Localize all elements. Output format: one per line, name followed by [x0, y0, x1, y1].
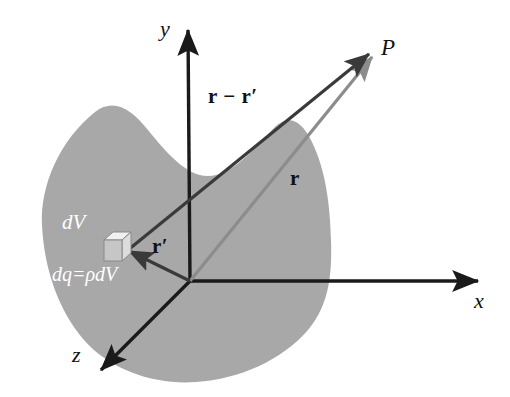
y-axis — [188, 30, 190, 281]
volume-element-label: dV — [62, 212, 85, 233]
charge-element-label: dq=ρdV — [52, 264, 117, 284]
charge-distribution-blob — [42, 105, 331, 382]
x-axis-label: x — [474, 290, 484, 312]
volume-element-cube — [104, 232, 131, 261]
y-axis-label: y — [160, 18, 170, 40]
field-point-label: P — [381, 36, 395, 59]
diagram-canvas — [0, 0, 510, 397]
source-vector-label: r′ — [152, 236, 168, 257]
charge-distribution-figure: y x z P r − r′ r r′ dV dq=ρdV — [0, 0, 510, 397]
position-vector-label: r — [290, 168, 300, 189]
z-axis-label: z — [72, 344, 81, 366]
separation-vector-label: r − r′ — [208, 86, 258, 107]
